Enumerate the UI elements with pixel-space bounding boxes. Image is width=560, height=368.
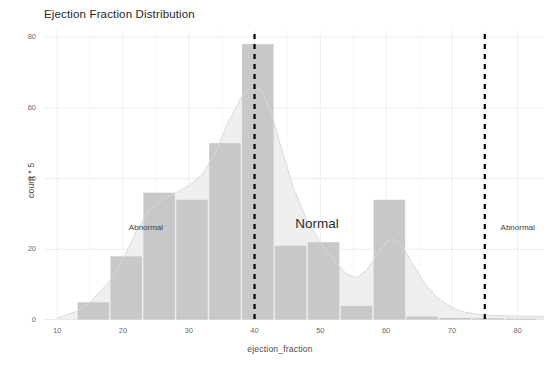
chart-root: Ejection Fraction Distribution 020406080…	[0, 0, 560, 368]
x-tick-label: 40	[240, 326, 270, 335]
x-tick-label: 30	[174, 326, 204, 335]
histogram-bar	[78, 302, 109, 320]
histogram-bar	[275, 246, 306, 320]
y-tick-label: 60	[10, 103, 36, 112]
chart-title: Ejection Fraction Distribution	[44, 8, 195, 20]
chart-canvas	[44, 30, 544, 320]
region-label: Abnormal	[478, 223, 558, 232]
histogram-bar	[242, 44, 273, 320]
histogram-bar	[209, 143, 240, 320]
x-tick-label: 50	[305, 326, 335, 335]
histogram-bar	[308, 242, 339, 320]
x-tick-label: 10	[42, 326, 72, 335]
y-tick-label: 80	[10, 32, 36, 41]
x-tick-label: 60	[371, 326, 401, 335]
x-tick-label: 70	[437, 326, 467, 335]
plot-area: 020406080 1020304050607080 AbnormalNorma…	[44, 30, 544, 320]
region-label: Abnormal	[106, 223, 186, 232]
y-tick-label: 20	[10, 244, 36, 253]
histogram-bar	[176, 200, 207, 320]
y-axis-title: count * 5	[26, 163, 36, 198]
histogram-bar	[407, 316, 438, 320]
y-tick-label: 0	[10, 315, 36, 324]
histogram-bar	[341, 306, 372, 320]
histogram-bar	[110, 256, 141, 320]
histogram-bar	[374, 200, 405, 320]
x-tick-label: 20	[108, 326, 138, 335]
x-axis-title: ejection_fraction	[0, 344, 560, 354]
x-tick-label: 80	[503, 326, 533, 335]
region-label: Normal	[277, 216, 357, 231]
